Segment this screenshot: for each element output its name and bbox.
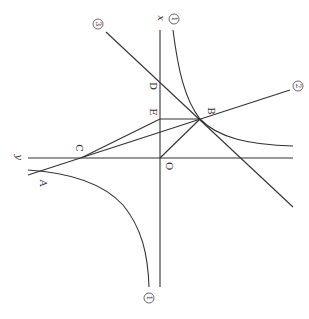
svg-text:2: 2 [294,84,303,89]
segment-ce [81,119,160,158]
curve-label-hyperbola-bottom: 1 [144,293,154,303]
origin-label: O [164,162,175,170]
line-2 [28,90,290,175]
segment-ob [160,119,200,158]
curve-label-line-2: 2 [293,81,303,91]
point-label-d: D [148,82,159,90]
svg-text:1: 1 [145,296,154,301]
point-label-e: E [148,108,159,115]
y-axis-label: y [14,153,25,160]
x-axis-label: x [156,15,167,21]
svg-text:1: 1 [170,17,179,22]
diagram-canvas: x y A B C D E O 1 1 2 3 [0,0,309,319]
hyperbola-branch-right [173,30,293,146]
point-label-b: B [206,107,217,114]
curve-label-line-3: 3 [93,19,103,29]
point-label-c: C [74,144,85,152]
point-label-a: A [38,178,49,187]
hyperbola-branch-left [28,170,149,287]
svg-text:3: 3 [94,22,103,27]
curve-label-hyperbola-top: 1 [169,14,179,24]
